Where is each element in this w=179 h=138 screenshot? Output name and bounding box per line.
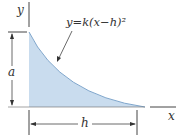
shaded-area	[29, 32, 145, 107]
x-axis-label: x	[168, 110, 175, 122]
arrowhead-right-icon	[130, 122, 136, 126]
arrowhead-down-icon	[10, 100, 14, 106]
equation-leader-line	[58, 31, 72, 60]
leader-arrowhead-icon	[57, 56, 61, 62]
y-axis-label: y	[17, 4, 24, 16]
curve-equation: y=k(x−h)²	[66, 17, 126, 29]
dimension-a-label: a	[8, 66, 15, 78]
arrowhead-left-icon	[30, 122, 36, 126]
arrowhead-up-icon	[10, 33, 14, 39]
dimension-h-label: h	[81, 117, 89, 129]
